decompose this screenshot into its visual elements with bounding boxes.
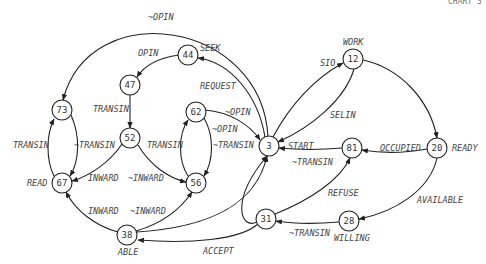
node-67[interactable]: 67 (52, 173, 72, 193)
svg-text:44: 44 (183, 50, 194, 60)
label-nopin-3-62: ~OPIN (212, 124, 238, 134)
label-transin-56-62: TRANSIN (147, 140, 184, 150)
edge-44-47 (137, 55, 179, 77)
label-selin: SELIN (330, 110, 356, 120)
node-44[interactable]: 44 (178, 45, 198, 65)
svg-text:81: 81 (347, 143, 358, 153)
state-diagram: CHART 3 (0, 0, 486, 264)
edge-31-38 (138, 224, 258, 241)
svg-text:20: 20 (432, 143, 443, 153)
label-nopin-top: ~OPIN (148, 12, 174, 22)
edge-labels: ~OPIN SEEK OPIN REQUEST TRANSIN TRANSIN … (13, 12, 464, 256)
label-transin-67-73: TRANSIN (13, 140, 50, 150)
node-name-read: READ (27, 178, 47, 188)
node-47[interactable]: 47 (120, 75, 140, 95)
svg-text:73: 73 (57, 105, 68, 115)
node-20[interactable]: 20 (427, 138, 447, 158)
node-81[interactable]: 81 (342, 138, 362, 158)
edge-28-31 (276, 221, 339, 223)
svg-text:3: 3 (266, 141, 271, 151)
label-ntransin-81-3: ~TRANSIN (292, 157, 334, 167)
node-73[interactable]: 73 (52, 100, 72, 120)
node-31[interactable]: 31 (256, 209, 276, 229)
node-12[interactable]: 12 (343, 49, 363, 69)
label-ntransin-73-67: ~TRANSIN (74, 140, 116, 150)
label-inward-52-67: INWARD (88, 173, 119, 183)
label-available: AVAILABLE (416, 195, 464, 205)
node-name-willing: WILLING (334, 233, 370, 243)
svg-text:28: 28 (344, 216, 355, 226)
label-seek: SEEK (200, 43, 221, 53)
label-ninward-52-56: ~INWARD (128, 173, 164, 183)
node-62[interactable]: 62 (186, 102, 206, 122)
svg-text:52: 52 (125, 133, 136, 143)
edge-12-3 (278, 69, 354, 142)
edge-67-73 (48, 119, 54, 176)
label-opin: OPIN (138, 48, 159, 58)
label-inward-38-67: INWARD (88, 206, 119, 216)
label-transin-47-52: TRANSIN (93, 104, 130, 114)
node-name-able: ABLE (117, 247, 139, 257)
label-sio: SIO (320, 58, 335, 68)
label-refuse: REFUSE (328, 188, 360, 198)
label-ntransin-62-56: ~TRANSIN (213, 140, 255, 150)
edge-62-56 (204, 118, 212, 176)
node-52[interactable]: 52 (120, 128, 140, 148)
svg-text:12: 12 (348, 54, 359, 64)
edge-3-12 (273, 63, 343, 137)
label-ninward-38-56: ~INWARD (130, 206, 166, 216)
svg-text:38: 38 (122, 230, 133, 240)
node-28[interactable]: 28 (339, 211, 359, 231)
svg-text:62: 62 (191, 107, 202, 117)
label-start: START (288, 141, 314, 151)
svg-text:67: 67 (57, 178, 68, 188)
svg-text:56: 56 (191, 178, 202, 188)
edge-3-73 (63, 34, 268, 137)
edge-20-28 (359, 158, 437, 219)
corner-label: CHART 3 (448, 0, 482, 6)
edge-12-20 (363, 60, 437, 138)
node-name-work: WORK (343, 37, 364, 47)
svg-text:47: 47 (125, 80, 136, 90)
label-accept: ACCEPT (202, 246, 235, 256)
svg-text:31: 31 (261, 214, 272, 224)
label-ntransin-28-31: ~TRANSIN (289, 228, 331, 238)
node-name-ready: READY (452, 143, 478, 153)
node-3[interactable]: 3 (259, 136, 279, 156)
label-nopin-62-3: ~OPIN (225, 107, 251, 117)
node-56[interactable]: 56 (186, 173, 206, 193)
label-occupied: OCCUPIED (380, 143, 421, 153)
node-38[interactable]: 38 (117, 225, 137, 245)
label-request: REQUEST (200, 81, 237, 91)
